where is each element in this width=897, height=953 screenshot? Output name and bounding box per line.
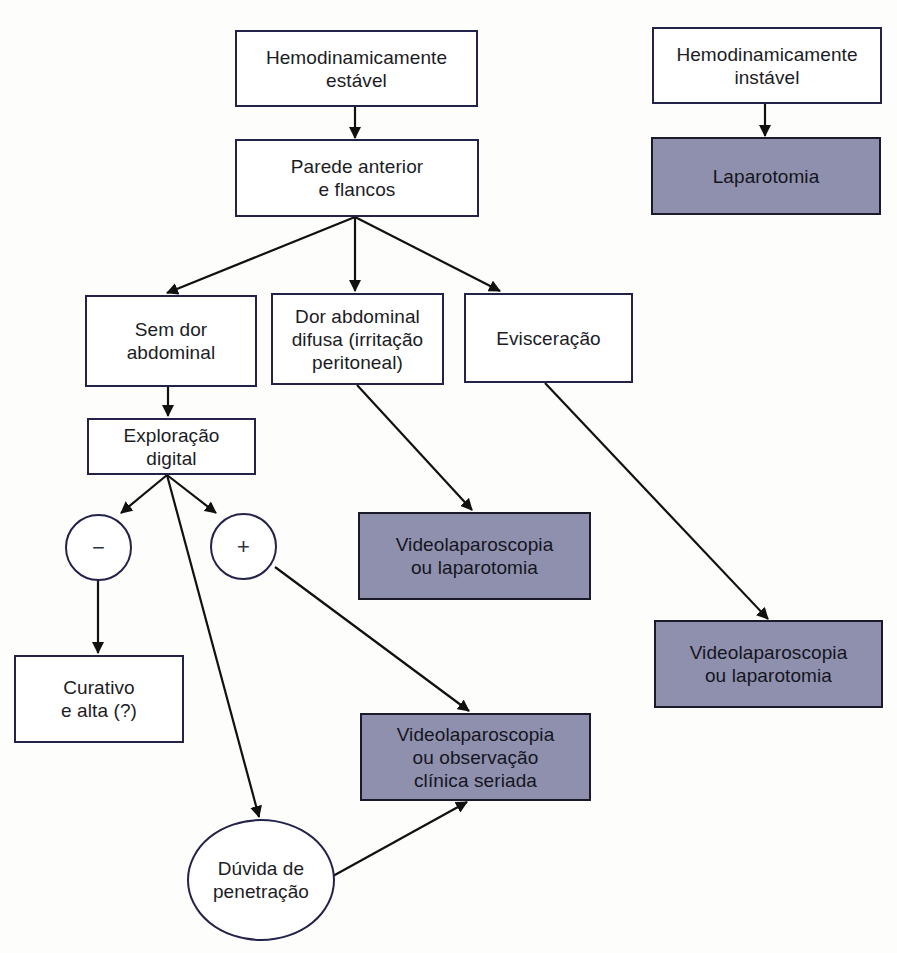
edge-digital-to-negative <box>121 475 167 513</box>
node-label: Videolaparoscopia ou laparotomia <box>690 641 848 687</box>
edge-penetration-doubt-to-video-observation <box>333 802 467 876</box>
node-evisceration: Evisceração <box>464 293 633 383</box>
edge-anterior-wall-to-no-pain <box>167 217 355 293</box>
node-label: Evisceração <box>496 327 601 350</box>
node-label: Exploração digital <box>123 424 219 470</box>
node-anterior-wall-and-flanks: Parede anterior e flancos <box>235 139 479 217</box>
node-laparotomy: Laparotomia <box>651 137 881 215</box>
node-label: Videolaparoscopia ou laparotomia <box>396 533 554 579</box>
node-negative-result: − <box>65 514 132 581</box>
edge-diffuse-pain-to-video-lap-1 <box>357 385 472 510</box>
node-positive-result: + <box>210 513 277 580</box>
node-label: Dor abdominal difusa (irritação peritone… <box>292 305 424 374</box>
flowchart-canvas: Hemodinamicamente estável Hemodinamicame… <box>0 0 897 953</box>
node-label: Dúvida de penetração <box>213 857 309 903</box>
node-videolaparoscopy-or-laparotomy-2: Videolaparoscopia ou laparotomia <box>654 620 883 708</box>
edge-digital-to-positive <box>167 475 216 513</box>
node-label: Hemodinamicamente instável <box>676 43 857 89</box>
node-penetration-doubt: Dúvida de penetração <box>187 819 335 941</box>
node-videolaparoscopy-or-laparotomy-1: Videolaparoscopia ou laparotomia <box>358 512 591 600</box>
node-videolaparoscopy-or-serial-observation: Videolaparoscopia ou observação clínica … <box>360 713 591 801</box>
node-label: Hemodinamicamente estável <box>266 46 447 92</box>
plus-icon: + <box>237 535 250 558</box>
node-label: Sem dor abdominal <box>127 318 216 364</box>
node-dressing-and-discharge: Curativo e alta (?) <box>14 655 184 743</box>
node-no-abdominal-pain: Sem dor abdominal <box>85 295 257 387</box>
node-diffuse-abdominal-pain: Dor abdominal difusa (irritação peritone… <box>271 293 444 385</box>
minus-icon: − <box>92 536 105 559</box>
node-digital-exploration: Exploração digital <box>87 418 256 475</box>
node-hemodynamically-unstable: Hemodinamicamente instável <box>652 27 882 104</box>
node-hemodynamically-stable: Hemodinamicamente estável <box>235 30 478 107</box>
node-label: Videolaparoscopia ou observação clínica … <box>397 723 555 792</box>
node-label: Parede anterior e flancos <box>291 155 423 201</box>
edge-anterior-wall-to-evisceration <box>355 217 500 291</box>
node-label: Curativo e alta (?) <box>61 676 137 722</box>
node-label: Laparotomia <box>713 165 820 188</box>
